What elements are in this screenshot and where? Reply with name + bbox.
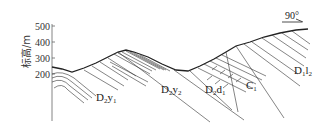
tick-400: 400: [35, 37, 50, 48]
geologic-cross-section: 500 400 300 200 标高/m: [0, 0, 329, 131]
y-axis-label: 标高/m: [20, 35, 32, 68]
orientation-marker: 90°: [282, 10, 303, 22]
unit-label-D2y1: D2y1: [96, 91, 117, 105]
unit-label-D2d1: D2d1: [205, 83, 226, 97]
y-axis: 500 400 300 200 标高/m: [20, 21, 55, 122]
strata-lines: [52, 31, 310, 122]
unit-label-D2y2: D2y2: [161, 83, 182, 97]
unit-label-D1l2: D1l2: [294, 64, 313, 78]
unit-label-C1: C1: [246, 79, 257, 93]
tick-300: 300: [35, 53, 50, 64]
tick-200: 200: [35, 69, 50, 80]
tick-500: 500: [35, 21, 50, 32]
terrain-profile: [52, 29, 308, 72]
